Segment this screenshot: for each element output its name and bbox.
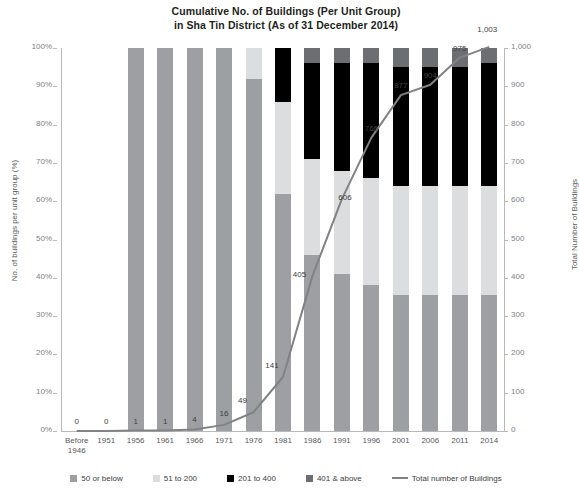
line-data-label: 16: [206, 409, 242, 418]
bar-segment: [363, 178, 379, 285]
chart-title-line-1: Cumulative No. of Buildings (Per Unit Gr…: [0, 4, 572, 18]
line-data-label: 49: [225, 396, 261, 405]
y-tick-label-right: 100: [511, 387, 524, 396]
bar-column: [363, 48, 379, 431]
bar-segment: [304, 63, 320, 159]
line-data-label: 405: [281, 270, 317, 279]
line-data-label: 606: [327, 193, 363, 202]
y-axis-left-line: [61, 48, 62, 432]
bar-segment: [422, 295, 438, 431]
y-tick-mark-right: [504, 431, 508, 432]
bar-segment: [422, 48, 438, 67]
bar-column: [275, 48, 291, 431]
bar-segment: [452, 186, 468, 295]
y-tick-label-left: 50%: [14, 234, 52, 243]
chart-footnote: [44, 492, 504, 500]
y-tick-mark-left: [53, 48, 57, 49]
y-tick-label-right: 1,000: [511, 42, 531, 51]
legend-item[interactable]: 51 to 200: [153, 474, 197, 483]
legend-swatch-icon: [153, 475, 160, 482]
bar-segment: [157, 48, 173, 431]
y-tick-label-left: 20%: [14, 348, 52, 357]
bar-segment: [363, 48, 379, 63]
legend-label: 201 to 400: [238, 474, 276, 483]
y-tick-mark-right: [504, 240, 508, 241]
bar-column: [128, 48, 144, 431]
bar-segment: [334, 63, 350, 170]
bar-segment: [246, 79, 262, 431]
bar-segment: [481, 48, 497, 63]
bar-segment: [304, 159, 320, 255]
legend-item[interactable]: 50 or below: [70, 474, 122, 483]
bar-column: [157, 48, 173, 431]
y-axis-left-title: No. of buildings per unit group (%): [10, 121, 19, 321]
bar-segment: [304, 255, 320, 431]
bar-segment: [422, 186, 438, 295]
bar-segment: [452, 295, 468, 431]
line-data-label: 766: [353, 124, 389, 133]
bar-segment: [187, 48, 203, 431]
y-tick-mark-right: [504, 393, 508, 394]
legend-label: Total number of Buildings: [412, 474, 502, 483]
y-tick-mark-left: [53, 86, 57, 87]
bar-segment: [393, 295, 409, 431]
bar-segment: [216, 48, 232, 431]
y-tick-mark-left: [53, 278, 57, 279]
y-tick-label-left: 80%: [14, 119, 52, 128]
y-tick-label-left: 90%: [14, 80, 52, 89]
bar-segment: [393, 48, 409, 67]
bar-segment: [334, 274, 350, 431]
y-tick-mark-right: [504, 163, 508, 164]
y-tick-label-right: 600: [511, 195, 524, 204]
bar-segment: [334, 48, 350, 63]
line-data-label: 877: [383, 81, 419, 90]
y-tick-mark-right: [504, 125, 508, 126]
legend-swatch-icon: [70, 475, 77, 482]
legend-line-icon: [392, 477, 408, 479]
x-axis-line: [61, 431, 505, 432]
legend-item[interactable]: 401 & above: [306, 474, 362, 483]
y-tick-mark-left: [53, 354, 57, 355]
line-data-label: 904: [412, 71, 448, 80]
y-tick-label-left: 60%: [14, 195, 52, 204]
y-tick-mark-right: [504, 278, 508, 279]
y-tick-mark-left: [53, 393, 57, 394]
y-tick-label-right: 200: [511, 348, 524, 357]
bar-segment: [481, 186, 497, 295]
legend-label: 50 or below: [81, 474, 122, 483]
bar-segment: [363, 63, 379, 178]
bar-segment: [422, 67, 438, 186]
y-tick-label-right: 700: [511, 157, 524, 166]
bar-segment: [452, 67, 468, 186]
legend-item[interactable]: 201 to 400: [227, 474, 276, 483]
bar-segment: [363, 285, 379, 431]
bar-segment: [334, 171, 350, 274]
bar-segment: [393, 186, 409, 295]
legend-label: 51 to 200: [164, 474, 197, 483]
y-tick-mark-right: [504, 48, 508, 49]
y-tick-mark-left: [53, 163, 57, 164]
y-tick-label-right: 0: [511, 425, 515, 434]
y-axis-right-title: Total Number of Buildings: [570, 125, 579, 325]
y-tick-mark-right: [504, 354, 508, 355]
bar-segment: [481, 295, 497, 431]
bar-column: [481, 48, 497, 431]
bar-column: [334, 48, 350, 431]
y-tick-label-left: 70%: [14, 157, 52, 166]
y-tick-mark-right: [504, 86, 508, 87]
legend-label: 401 & above: [317, 474, 362, 483]
bar-segment: [275, 102, 291, 194]
bar-segment: [128, 48, 144, 431]
chart-legend: 50 or below51 to 200201 to 400401 & abov…: [0, 470, 572, 486]
y-tick-mark-left: [53, 125, 57, 126]
legend-item[interactable]: Total number of Buildings: [392, 474, 502, 483]
y-tick-mark-left: [53, 431, 57, 432]
legend-swatch-icon: [306, 475, 313, 482]
y-tick-mark-left: [53, 316, 57, 317]
y-tick-label-left: 40%: [14, 272, 52, 281]
bar-segment: [304, 48, 320, 63]
y-tick-label-left: 30%: [14, 310, 52, 319]
bar-column: [422, 48, 438, 431]
bar-segment: [246, 48, 262, 79]
